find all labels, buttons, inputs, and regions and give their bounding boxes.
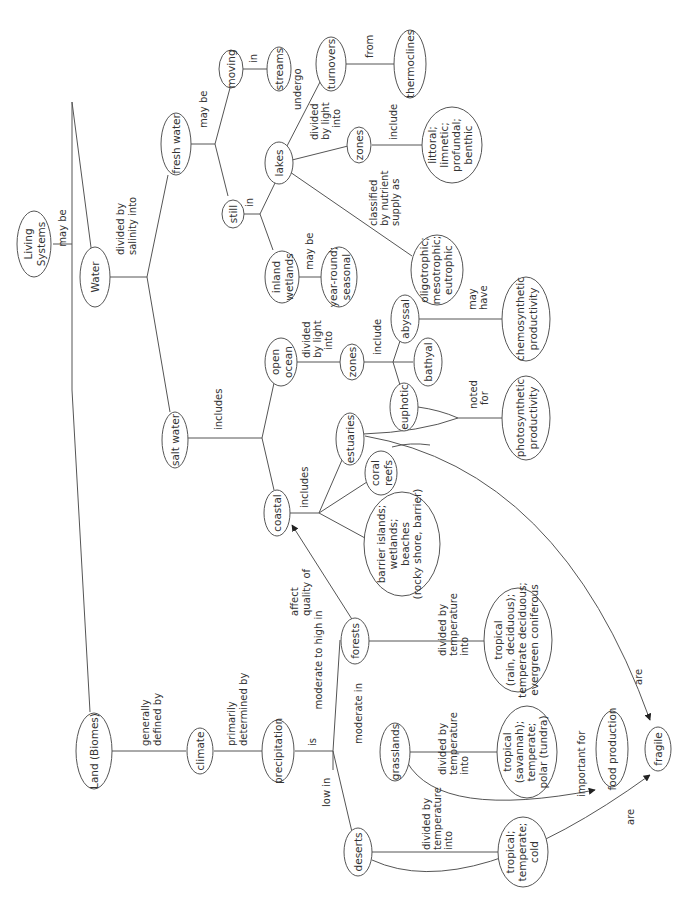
node-turnovers: turnovers (316, 37, 346, 91)
svg-text:eutrophic: eutrophic (442, 245, 454, 295)
svg-text:defined by: defined by (152, 693, 163, 746)
svg-text:wetlands: wetlands (283, 253, 295, 300)
node-lakes: lakes (265, 142, 293, 184)
svg-text:productivity: productivity (527, 288, 539, 351)
svg-text:evergreen coniferous: evergreen coniferous (528, 584, 540, 696)
link-low-in: low in (321, 778, 332, 807)
node-forests: forests (341, 618, 369, 664)
svg-text:by light: by light (320, 102, 331, 140)
link-grass-divided-temp: divided by (437, 723, 448, 775)
link-still-in: in (244, 198, 255, 207)
svg-text:tropical: tropical (492, 620, 504, 659)
node-bathyal: bathyal (414, 338, 442, 386)
edges (53, 64, 650, 872)
link-ocean-divided-light: divided (301, 321, 312, 358)
svg-text:forests: forests (349, 623, 361, 659)
node-trophic-states: oligotrophic; mesotrophic; eutrophic (411, 235, 463, 305)
svg-text:salt water: salt water (169, 413, 181, 466)
node-grassland-types: tropical (savannah); temperate; polar (t… (497, 706, 557, 798)
svg-text:into: into (459, 756, 470, 775)
node-streams: streams (267, 47, 291, 91)
link-moving-in: in (248, 54, 259, 63)
node-lake-zones: zones (347, 127, 371, 163)
node-photosynthetic-productivity: photosynthetic productivity (502, 376, 550, 460)
svg-text:Land (Biomes): Land (Biomes) (88, 713, 100, 789)
svg-text:littoral;: littoral; (426, 126, 438, 164)
svg-text:thermoclines: thermoclines (404, 30, 416, 98)
svg-text:profundal;: profundal; (450, 118, 462, 172)
node-open-ocean: open ocean (265, 338, 297, 386)
svg-text:barrier islands;: barrier islands; (375, 505, 387, 584)
svg-text:have: have (478, 285, 489, 310)
svg-text:temperature: temperature (432, 787, 443, 850)
node-thermoclines: thermoclines (394, 30, 426, 98)
svg-text:into: into (331, 109, 342, 128)
svg-text:zones: zones (353, 130, 365, 161)
node-living-systems: Living Systems (17, 211, 51, 277)
node-coral-reefs: coral reefs (365, 451, 397, 495)
link-is: is (307, 738, 318, 746)
svg-text:estuaries: estuaries (344, 415, 356, 463)
node-deserts: deserts (344, 828, 372, 876)
link-fresh-may-be: may be (198, 91, 209, 128)
node-lake-zone-list: littoral; limnetic; profundal; benthic (422, 107, 482, 183)
link-generally-defined: generally (140, 699, 151, 746)
svg-text:abyssal: abyssal (399, 299, 411, 339)
link-moderate-in: moderate in (353, 683, 364, 744)
node-desert-types: tropical; temperate; cold (498, 817, 548, 887)
svg-text:into: into (459, 637, 470, 656)
link-coastal-includes: includes (299, 467, 310, 508)
svg-text:euphotic: euphotic (398, 384, 410, 430)
svg-text:by nutrient: by nutrient (379, 171, 390, 226)
link-divided-salinity: divided by (115, 203, 126, 255)
svg-text:(savannah);: (savannah); (513, 721, 525, 784)
svg-text:polar (tundra): polar (tundra) (537, 715, 549, 788)
svg-text:(rocky shore, barrier): (rocky shore, barrier) (411, 489, 423, 600)
link-are-deserts: are (625, 809, 636, 825)
node-salt-water: salt water (162, 412, 188, 468)
svg-text:inland: inland (270, 261, 282, 293)
svg-text:grasslands: grasslands (389, 724, 401, 781)
link-affect-quality: affect (289, 587, 300, 616)
svg-text:fresh water: fresh water (170, 114, 182, 174)
node-land-biomes: Land (Biomes) (76, 713, 112, 789)
svg-text:precipitation: precipitation (272, 718, 284, 784)
node-estuaries: estuaries (336, 413, 364, 465)
svg-text:turnovers: turnovers (325, 39, 337, 89)
svg-text:into: into (443, 831, 454, 850)
link-from: from (364, 35, 375, 58)
svg-text:deserts: deserts (352, 833, 364, 872)
svg-text:quality of: quality of (301, 568, 312, 616)
svg-text:fragile: fragile (652, 732, 664, 765)
svg-text:supply as: supply as (390, 179, 401, 226)
svg-text:reefs: reefs (382, 460, 394, 486)
svg-text:temperature: temperature (448, 712, 459, 775)
link-may-have: may (467, 288, 478, 310)
node-coastal: coastal (264, 490, 290, 536)
svg-text:Living: Living (22, 228, 34, 259)
node-fresh-water: fresh water (161, 113, 191, 175)
svg-text:lakes: lakes (273, 150, 285, 177)
link-wetlands-may-be: may be (304, 233, 315, 270)
link-noted-for: noted (468, 380, 479, 409)
concept-map: Living Systems Water Land (Biomes) fresh… (0, 0, 677, 911)
svg-text:beaches: beaches (399, 522, 411, 566)
svg-text:benthic: benthic (462, 125, 474, 164)
svg-text:coastal: coastal (271, 494, 283, 532)
node-food-production: food production (596, 708, 628, 791)
link-ocean-include: include (372, 319, 383, 355)
svg-text:productivity: productivity (527, 387, 539, 450)
link-classified: classified (368, 180, 379, 226)
svg-text:salinity into: salinity into (127, 197, 138, 255)
svg-text:temperature: temperature (448, 593, 459, 656)
link-salt-includes: includes (213, 389, 224, 430)
node-grasslands: grasslands (380, 723, 410, 781)
svg-text:zones: zones (346, 347, 358, 378)
svg-text:Water: Water (89, 261, 101, 293)
svg-text:open: open (269, 349, 281, 375)
svg-text:into: into (323, 331, 334, 350)
svg-text:food production: food production (606, 708, 618, 791)
node-forest-types: tropical (rain, deciduous); temperate de… (484, 582, 552, 698)
node-fragile: fragile (645, 727, 671, 771)
svg-text:chemosynthetic: chemosynthetic (514, 277, 526, 361)
